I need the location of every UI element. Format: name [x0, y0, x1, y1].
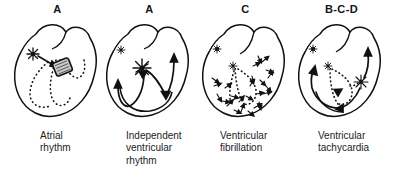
panel-atrial-rhythm: A — [8, 0, 107, 184]
panel-letter: B-C-D — [292, 2, 391, 16]
panel-caption: Independent ventricular rhythm — [126, 130, 182, 167]
heart-diagram-ventricular-tachycardia — [292, 16, 391, 126]
panel-letter: A — [8, 2, 107, 16]
heart-diagram-independent-ventricular-rhythm — [100, 16, 199, 126]
panel-ventricular-fibrillation: C — [196, 0, 295, 184]
panel-caption: Atrial rhythm — [40, 130, 71, 155]
cardiac-rhythm-figure: A — [0, 0, 396, 184]
panel-caption: Ventricular fibrillation — [220, 130, 267, 155]
panel-caption: Ventricular tachycardia — [318, 130, 369, 155]
sa-node-starburst-small-icon — [309, 45, 317, 53]
heart-diagram-ventricular-fibrillation — [196, 16, 295, 126]
panel-independent-ventricular-rhythm: A — [100, 0, 199, 184]
av-node-starburst-small-icon — [229, 62, 237, 70]
av-node-starburst-small-icon — [324, 62, 332, 70]
panel-ventricular-tachycardia: B-C-D — [292, 0, 391, 184]
panel-letter: C — [196, 2, 295, 16]
ectopic-focus-starburst-icon — [354, 75, 368, 89]
panel-letter: A — [100, 2, 199, 16]
sa-node-starburst-small-icon — [117, 46, 125, 54]
sa-node-starburst-small-icon — [213, 45, 221, 53]
heart-diagram-atrial-rhythm — [8, 16, 107, 126]
sa-node-starburst-icon — [27, 48, 39, 60]
